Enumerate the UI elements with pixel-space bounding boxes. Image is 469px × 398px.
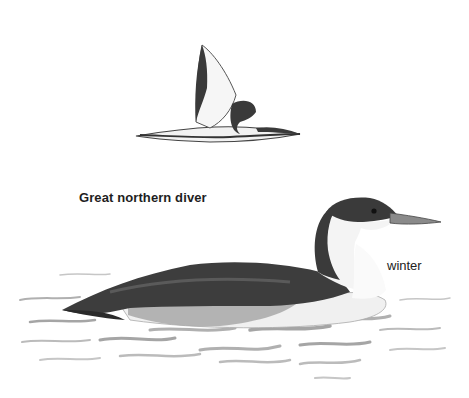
illustration-canvas (0, 0, 469, 398)
bird-illustration (0, 0, 469, 398)
plumage-label: winter (387, 258, 422, 273)
species-label: Great northern diver (79, 190, 207, 205)
swimming-diver (62, 198, 441, 328)
eye-icon (371, 208, 376, 213)
flying-diver (136, 45, 300, 142)
